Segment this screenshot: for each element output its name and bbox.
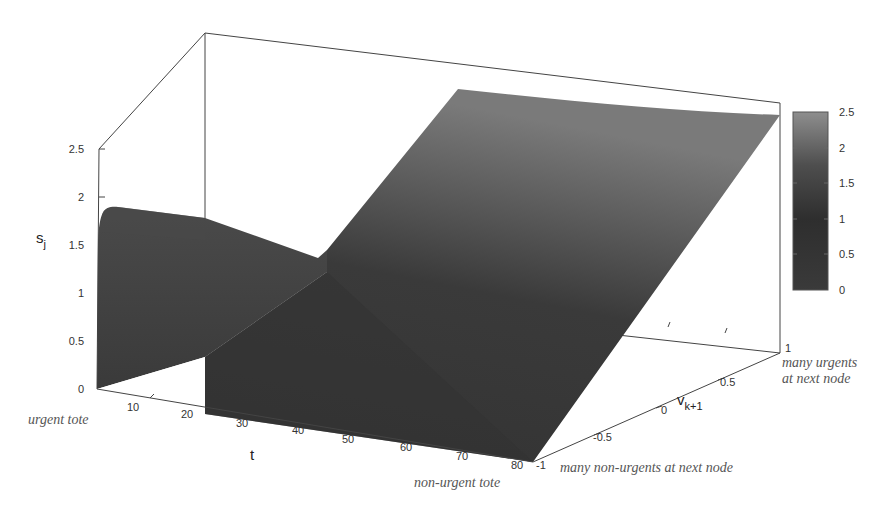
svg-text:0: 0 xyxy=(839,284,845,296)
z-tick-labels: 2.5 2 1.5 1 0.5 0 xyxy=(69,143,84,395)
svg-text:1.5: 1.5 xyxy=(839,177,854,189)
surface-plot: 2.5 2 1.5 1 0.5 0 10 20 30 40 50 60 70 8… xyxy=(0,0,891,518)
svg-text:40: 40 xyxy=(292,424,304,436)
svg-text:-1: -1 xyxy=(536,459,546,471)
annotation-many-non-urgents: many non-urgents at next node xyxy=(560,460,733,475)
svg-text:30: 30 xyxy=(236,417,248,429)
svg-text:1.5: 1.5 xyxy=(69,239,84,251)
svg-text:60: 60 xyxy=(400,441,412,453)
svg-text:0: 0 xyxy=(78,383,84,395)
svg-text:2.5: 2.5 xyxy=(69,143,84,155)
svg-text:20: 20 xyxy=(181,408,193,420)
svg-text:2: 2 xyxy=(78,191,84,203)
svg-text:0.5: 0.5 xyxy=(839,248,854,260)
svg-text:1: 1 xyxy=(785,342,791,354)
svg-text:1: 1 xyxy=(78,287,84,299)
t-axis-label: t xyxy=(250,446,255,463)
svg-text:2.5: 2.5 xyxy=(839,106,854,118)
colorbar: 2.5 2 1.5 1 0.5 0 xyxy=(793,106,854,296)
svg-text:50: 50 xyxy=(342,433,354,445)
svg-text:80: 80 xyxy=(511,459,523,471)
svg-text:70: 70 xyxy=(456,450,468,462)
svg-text:0.5: 0.5 xyxy=(720,376,735,388)
annotation-urgent-tote: urgent tote xyxy=(28,412,89,427)
svg-text:1: 1 xyxy=(839,213,845,225)
v-axis-label: vk+1 xyxy=(677,391,703,412)
svg-text:-0.5: -0.5 xyxy=(593,431,612,443)
svg-text:0: 0 xyxy=(661,404,667,416)
annotation-many-urgents-2: at next node xyxy=(782,371,850,386)
svg-text:0.5: 0.5 xyxy=(69,335,84,347)
annotation-non-urgent-tote: non-urgent tote xyxy=(414,475,500,490)
z-axis-label: sj xyxy=(36,229,46,250)
annotation-many-urgents-1: many urgents xyxy=(782,355,858,370)
svg-text:10: 10 xyxy=(127,401,139,413)
svg-text:2: 2 xyxy=(839,142,845,154)
